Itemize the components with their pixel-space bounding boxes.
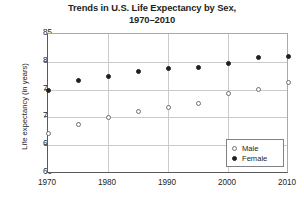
legend-item-male: Male [232,143,279,153]
chart-title: Trends in U.S. Life Expectancy by Sex, 1… [0,2,304,25]
data-point-filled-circle-icon [166,66,171,71]
data-point-filled-circle-icon [286,54,291,59]
data-point-filled-circle-icon [196,65,201,70]
x-axis-tick-label: 1990 [147,178,187,187]
chart-title-line-2: 1970–2010 [0,14,304,26]
open-circle-icon [232,146,237,151]
data-point-filled-circle-icon [46,88,51,93]
data-point-open-circle-icon [286,80,291,85]
x-axis-tick-label: 1970 [27,178,67,187]
data-point-filled-circle-icon [136,69,141,74]
data-point-open-circle-icon [226,91,231,96]
data-point-open-circle-icon [46,131,51,136]
data-point-open-circle-icon [196,101,201,106]
data-point-open-circle-icon [136,109,141,114]
data-point-filled-circle-icon [256,55,261,60]
data-point-filled-circle-icon [106,74,111,79]
x-axis-tick-label: 2000 [207,178,247,187]
legend-item-label: Female [242,154,267,163]
legend-item-label: Male [242,144,258,153]
data-point-open-circle-icon [76,122,81,127]
gridline [108,34,109,172]
data-point-open-circle-icon [166,105,171,110]
chart-title-line-1: Trends in U.S. Life Expectancy by Sex, [68,2,236,13]
data-point-open-circle-icon [256,87,261,92]
x-axis-tick-label: 1980 [87,178,127,187]
gridline [168,34,169,172]
filled-circle-icon [232,156,237,161]
legend-item-female: Female [232,153,279,163]
data-point-open-circle-icon [106,115,111,120]
data-point-filled-circle-icon [226,61,231,66]
data-point-filled-circle-icon [76,78,81,83]
x-axis-tick-label: 2010 [267,178,304,187]
life-expectancy-chart: Trends in U.S. Life Expectancy by Sex, 1… [0,0,304,205]
chart-legend: Male Female [226,139,284,167]
